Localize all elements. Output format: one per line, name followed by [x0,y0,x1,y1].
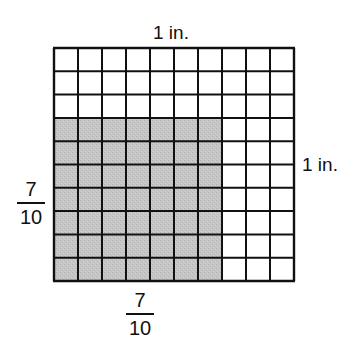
unit-square-grid [0,0,363,348]
shaded-region [54,118,222,281]
shaded-area [54,118,222,281]
